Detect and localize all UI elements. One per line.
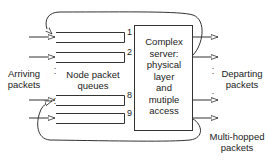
arriving-packets-label: Arriving packets [2,68,46,90]
multihop-label-line-2: packets [204,142,270,153]
queues-label-line-2: queues [62,80,124,91]
queue-number-9: 9 [127,108,132,118]
server-line-4: layer [136,71,192,83]
server-label: Complex server: physical layer and mutip… [136,36,192,117]
queue-1 [56,33,125,43]
queue-number-1: 1 [127,27,132,37]
departing-label-line-2: packets [215,79,269,90]
queue-9 [56,114,125,124]
departing-packets-label: Departing packets [215,68,269,90]
server-line-2: server: [136,48,192,60]
multihop-label-line-1: Multi-hopped [204,131,270,142]
server-line-7: access [136,105,192,117]
multihop-packets-label: Multi-hopped packets [204,131,270,153]
server-line-3: physical [136,59,192,71]
queue-number-2: 2 [127,47,132,57]
node-queues-label: Node packet queues [62,69,124,91]
queue-8 [56,96,125,106]
queue-number-8: 8 [127,90,132,100]
arriving-label-line-1: Arriving [2,68,46,79]
server-line-6: mutiple [136,94,192,106]
ellipsis-left: .... [53,64,57,104]
departing-label-line-1: Departing [215,68,269,79]
queues-label-line-1: Node packet [62,69,124,80]
queue-2 [56,53,125,63]
arriving-label-line-2: packets [2,79,46,90]
server-line-5: and [136,82,192,94]
server-line-1: Complex [136,36,192,48]
